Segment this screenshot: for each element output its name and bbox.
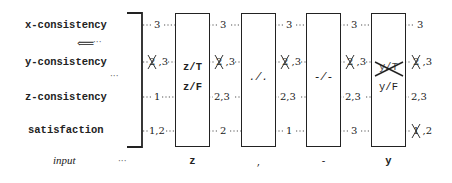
value-c0-r0: 3 xyxy=(154,19,160,30)
box-z-line-1: z/T xyxy=(176,57,209,77)
input-label: input xyxy=(53,154,76,166)
box-y-line-1-struck: y/T xyxy=(372,57,405,77)
box-comma: ./. xyxy=(241,13,276,147)
value-c2-r2: 2,3 xyxy=(280,91,296,102)
box-y: y/T y/F xyxy=(371,13,406,147)
input-symbol-dash: - xyxy=(306,155,341,167)
input-symbol-y: y xyxy=(371,155,406,167)
input-symbol-comma: , xyxy=(241,155,276,167)
value-c0-r2: 1 xyxy=(154,91,160,102)
value-c1-r0: 3 xyxy=(220,19,226,30)
strike-cross-icon xyxy=(345,55,355,69)
value-c3-r0: 3 xyxy=(351,19,357,30)
struck-value: 2 xyxy=(413,56,423,67)
value-c4-r3: 1 ,2 xyxy=(413,125,432,136)
box-z: z/T z/F xyxy=(175,13,210,147)
value-c1-r1: 2 ,3 xyxy=(216,56,235,67)
strike-cross-icon xyxy=(374,59,404,77)
value-c4-r2: 2,3 xyxy=(411,91,427,102)
strike-cross-icon xyxy=(147,55,157,69)
value-c1-r2: 2,3 xyxy=(214,91,230,102)
value-c3-r1: 2 ,3 xyxy=(347,56,366,67)
strike-cross-icon xyxy=(411,124,421,138)
strike-cross-icon xyxy=(411,55,421,69)
struck-value: 2 xyxy=(216,56,226,67)
box-comma-line-1: ./. xyxy=(242,67,275,87)
value-c0-r3: 1,2 xyxy=(149,125,165,136)
value-c1-r3: 2 xyxy=(220,125,226,136)
value-c3-r2: 2,3 xyxy=(345,91,361,102)
value-c2-r3: 1 xyxy=(286,125,292,136)
struck-value: 1 xyxy=(413,125,423,136)
struck-value: 2 xyxy=(282,56,292,67)
value-c4-r0: 3 xyxy=(417,19,423,30)
strike-cross-icon xyxy=(280,55,290,69)
box-y-line-2: y/F xyxy=(372,77,405,97)
box-dash-line-1: -/- xyxy=(307,67,340,87)
value-c4-r1: 2 ,3 xyxy=(413,56,432,67)
value-c2-r1: 2 ,3 xyxy=(282,56,301,67)
input-ellipsis: ··· xyxy=(118,156,127,166)
box-dash: -/- xyxy=(306,13,341,147)
value-c2-r0: 3 xyxy=(286,19,292,30)
box-z-line-2: z/F xyxy=(176,77,209,97)
strike-cross-icon xyxy=(214,55,224,69)
struck-value: 2 xyxy=(149,56,159,67)
value-c0-r1: 2 ,3 xyxy=(149,56,168,67)
value-c3-r3: 3 xyxy=(351,125,357,136)
input-symbol-z: z xyxy=(175,155,210,167)
struck-value: 2 xyxy=(347,56,357,67)
